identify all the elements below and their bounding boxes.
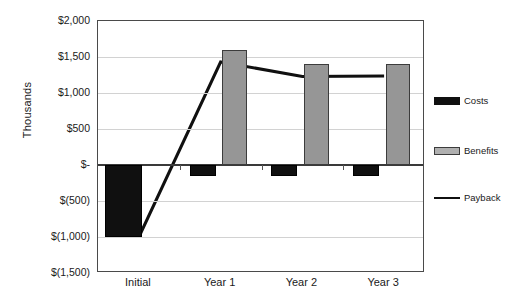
gridline [98,93,423,94]
legend-item-costs[interactable]: Costs [434,95,488,106]
chart-container: Thousands $2,000$1,500$1,000$500$-$(500)… [0,0,514,305]
bar-benefits [386,64,411,165]
y-axis-tick-label: $1,000 [12,87,90,97]
bar-costs [190,165,216,176]
x-axis-tick-label: Initial [97,276,179,288]
benefits-swatch-icon [434,147,460,155]
y-axis-tick-label: $- [12,159,90,169]
payback-line [98,21,425,273]
y-axis-tick-label: $2,000 [12,15,90,25]
payback-line-icon [434,197,460,199]
y-axis-tick-label: $(500) [12,195,90,205]
y-axis-tick-labels: $2,000$1,500$1,000$500$-$(500)$(1,000)$(… [8,0,90,305]
bar-costs [353,165,379,176]
x-axis-tick-mark [262,165,263,170]
legend-item-payback[interactable]: Payback [434,192,500,203]
costs-swatch-icon [434,97,460,105]
x-axis-tick-label: Year 2 [261,276,343,288]
legend-item-label: Payback [464,192,500,203]
gridline [98,201,423,202]
x-axis-tick-label: Year 1 [179,276,261,288]
plot-area [97,20,424,272]
x-axis-tick-labels: InitialYear 1Year 2Year 3 [97,276,424,298]
y-axis-tick-label: $(1,000) [12,231,90,241]
chart-legend: CostsBenefitsPayback [434,0,514,305]
bar-benefits [304,64,329,165]
x-axis-tick-mark [343,165,344,170]
gridline [98,57,423,58]
bar-costs [105,165,142,237]
gridline [98,237,423,238]
y-axis-tick-label: $500 [12,123,90,133]
bar-benefits [222,50,247,165]
x-axis-tick-mark [180,165,181,170]
bar-costs [271,165,297,176]
x-axis-tick-label: Year 3 [342,276,424,288]
gridline [98,129,423,130]
y-axis-tick-label: $(1,500) [12,267,90,277]
y-axis-tick-label: $1,500 [12,51,90,61]
legend-item-label: Benefits [464,145,498,156]
legend-item-benefits[interactable]: Benefits [434,145,498,156]
legend-item-label: Costs [464,95,488,106]
